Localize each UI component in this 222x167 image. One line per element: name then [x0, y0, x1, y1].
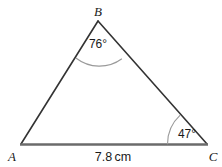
diagram-background	[0, 0, 222, 167]
angle-label-c: 47°	[178, 127, 196, 141]
vertex-label-c: C	[209, 149, 218, 164]
triangle-diagram: B A C 76° 47° 7.8 cm	[0, 0, 222, 167]
vertex-label-a: A	[7, 149, 16, 164]
side-length-label-ac: 7.8 cm	[95, 150, 132, 164]
angle-label-b: 76°	[89, 37, 107, 51]
vertex-label-b: B	[94, 4, 102, 19]
